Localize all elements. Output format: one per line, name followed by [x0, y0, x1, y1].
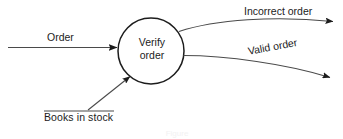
data-flow-diagram: Verify order Order Books in stock Incorr… — [0, 0, 343, 139]
process-label-line-2: order — [118, 49, 186, 62]
flow-label-incorrect-order: Incorrect order — [244, 6, 312, 17]
flow-label-order: Order — [47, 32, 74, 43]
flow-arrow-incorrect-order — [179, 19, 333, 32]
data-store-label-books-in-stock: Books in stock — [44, 112, 113, 123]
flow-arrow-books-in-stock — [88, 77, 130, 111]
process-label: Verify order — [118, 36, 186, 61]
flow-arrow-valid-order — [184, 56, 331, 78]
figure-caption: Figure — [132, 129, 222, 138]
process-label-line-1: Verify — [118, 36, 186, 49]
